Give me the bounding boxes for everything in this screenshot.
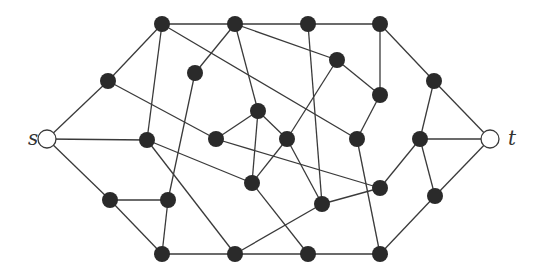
sink-label: t	[508, 126, 517, 150]
graph-node-g2	[227, 246, 243, 262]
edge-a1-d4	[162, 24, 357, 139]
edge-e1-g3	[252, 183, 308, 254]
edge-a2-c2	[235, 24, 258, 111]
edge-a3-e3	[308, 24, 322, 204]
edge-d3-e3	[287, 139, 322, 204]
edge-a4-b4	[380, 24, 434, 81]
graph-node-e2	[372, 180, 388, 196]
graph-node-a1	[154, 16, 170, 32]
graph-diagram: s t	[0, 0, 542, 275]
graph-node-e4	[427, 188, 443, 204]
graph-node-g1	[154, 246, 170, 262]
graph-node-c2	[250, 103, 266, 119]
graph-node-g4	[372, 246, 388, 262]
edge-a1-d1	[147, 24, 162, 140]
graph-node-d5	[412, 131, 428, 147]
edge-e3-e2	[322, 188, 380, 204]
edge-d5-e4	[420, 139, 435, 196]
edge-b4-d5	[420, 81, 434, 139]
graph-node-b4	[426, 73, 442, 89]
edge-b3-c1	[337, 60, 380, 95]
edge-b4-t	[434, 81, 490, 139]
edge-c2-e1	[252, 111, 258, 183]
edge-f1-g1	[110, 200, 162, 254]
graph-node-e3	[314, 196, 330, 212]
edge-a2-b2	[195, 24, 235, 73]
edge-b1-a1	[108, 24, 162, 81]
edge-b2-f2	[168, 73, 195, 200]
edge-d3-e1	[252, 139, 287, 183]
edge-d4-g4	[357, 139, 380, 254]
edge-g4-e4	[380, 196, 435, 254]
graph-node-a2	[227, 16, 243, 32]
graph-node-b2	[187, 65, 203, 81]
graph-node-b1	[100, 73, 116, 89]
graph-node-d2	[208, 131, 224, 147]
graph-node-g3	[300, 246, 316, 262]
graph-node-a4	[372, 16, 388, 32]
graph-node-b3	[329, 52, 345, 68]
edge-s-f1	[47, 139, 110, 200]
graph-node-d1	[139, 132, 155, 148]
edge-f2-g1	[162, 200, 168, 254]
graph-node-c1	[372, 87, 388, 103]
graph-node-f1	[102, 192, 118, 208]
source-label: s	[28, 126, 38, 150]
edge-e2-d5	[380, 139, 420, 188]
edge-d1-e1	[147, 140, 252, 183]
edge-d1-g2	[147, 140, 235, 254]
edge-a2-b3	[235, 24, 337, 60]
graph-node-e1	[244, 175, 260, 191]
edge-e4-t	[435, 139, 490, 196]
graph-node-a3	[300, 16, 316, 32]
edge-s-d1	[47, 139, 147, 140]
graph-node-d3	[279, 131, 295, 147]
source-node	[38, 130, 56, 148]
edge-b1-d2	[108, 81, 216, 139]
graph-node-f2	[160, 192, 176, 208]
edge-s-b1	[47, 81, 108, 139]
sink-node	[481, 130, 499, 148]
graph-node-d4	[349, 131, 365, 147]
